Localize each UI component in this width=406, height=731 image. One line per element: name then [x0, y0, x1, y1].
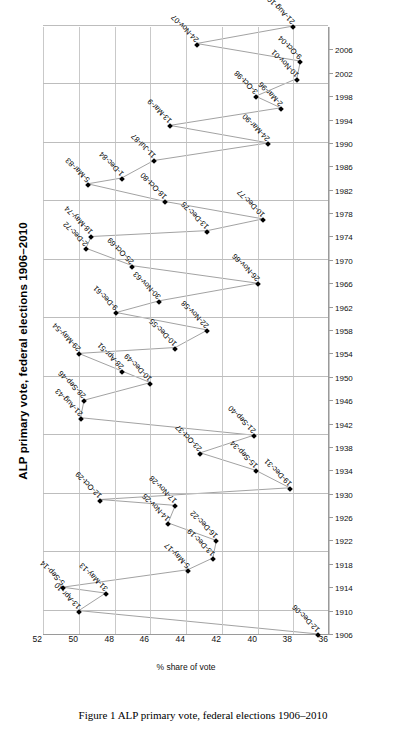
x-axis-tick-mark — [329, 447, 333, 448]
x-axis-tick-mark — [329, 377, 333, 378]
gridline-vertical — [43, 551, 328, 552]
gridline-horizontal — [150, 27, 151, 634]
x-axis-tick-mark — [329, 143, 333, 144]
x-axis-tick-mark — [329, 166, 333, 167]
x-axis-tick-mark — [329, 634, 333, 635]
gridline-horizontal — [258, 27, 259, 634]
x-axis-tick-mark — [329, 283, 333, 284]
x-axis-tick-mark — [329, 353, 333, 354]
x-axis-tick-mark — [329, 587, 333, 588]
x-axis-tick-mark — [329, 96, 333, 97]
gridline-vertical — [43, 142, 328, 143]
x-axis-tick-label: 1998 — [335, 93, 353, 102]
x-axis-tick-mark — [329, 73, 333, 74]
x-axis-tick-mark — [329, 611, 333, 612]
gridline-vertical — [43, 83, 328, 84]
gridline-vertical — [43, 493, 328, 494]
x-axis-tick-label: 1910 — [335, 608, 353, 617]
x-axis-tick-mark — [329, 330, 333, 331]
x-axis-tick-mark — [329, 470, 333, 471]
gridline-horizontal — [186, 27, 187, 634]
x-axis-tick-label: 1942 — [335, 420, 353, 429]
x-axis-tick-mark — [329, 400, 333, 401]
x-axis-tick-mark — [329, 49, 333, 50]
x-axis-tick-label: 1906 — [335, 631, 353, 640]
x-axis-tick-mark — [329, 564, 333, 565]
x-axis-tick-label: 2006 — [335, 46, 353, 55]
x-axis-tick-label: 1946 — [335, 397, 353, 406]
x-axis-tick-label: 1938 — [335, 444, 353, 453]
gridline-horizontal — [293, 27, 294, 634]
gridline-vertical — [43, 317, 328, 318]
chart-stage: ALP primary vote, federal elections 1906… — [17, 1, 389, 701]
x-axis-tick-mark — [329, 119, 333, 120]
figure-caption: Figure 1 ALP primary vote, federal elect… — [0, 709, 406, 721]
gridline-vertical — [43, 376, 328, 377]
x-axis-tick-label: 1954 — [335, 350, 353, 359]
x-axis-tick-label: 1914 — [335, 584, 353, 593]
x-axis-tick-label: 1962 — [335, 304, 353, 313]
x-axis-tick-label: 1918 — [335, 561, 353, 570]
x-axis-tick-label: 1950 — [335, 374, 353, 383]
plot-area — [43, 27, 329, 635]
x-axis-tick-label: 1966 — [335, 280, 353, 289]
x-axis-tick-mark — [329, 540, 333, 541]
gridline-horizontal — [222, 27, 223, 634]
x-axis-tick-label: 1974 — [335, 233, 353, 242]
x-axis-tick-mark — [329, 260, 333, 261]
x-axis-tick-label: 1926 — [335, 514, 353, 523]
x-axis-tick-label: 1930 — [335, 491, 353, 500]
x-axis-tick-mark — [329, 190, 333, 191]
y-axis-tick-label: 52 — [0, 634, 42, 644]
x-axis-tick-label: 1934 — [335, 467, 353, 476]
gridline-horizontal — [43, 27, 44, 634]
gridline-horizontal — [79, 27, 80, 634]
gridline-horizontal — [115, 27, 116, 634]
x-axis-tick-label: 1982 — [335, 187, 353, 196]
x-axis-tick-label: 1978 — [335, 210, 353, 219]
x-axis-tick-label: 1994 — [335, 116, 353, 125]
x-axis-tick-label: 1990 — [335, 140, 353, 149]
x-axis-tick-mark — [329, 307, 333, 308]
gridline-vertical — [43, 610, 328, 611]
x-axis-tick-mark — [329, 517, 333, 518]
x-axis-tick-mark — [329, 213, 333, 214]
y-axis-title: % share of vote — [156, 662, 215, 672]
gridline-vertical — [43, 259, 328, 260]
data-point-label: 21-Aug-10 — [265, 0, 296, 26]
x-axis-tick-label: 1922 — [335, 537, 353, 546]
x-axis-tick-label: 2002 — [335, 70, 353, 79]
x-axis-tick-label: 1986 — [335, 163, 353, 172]
x-axis-tick-label: 1958 — [335, 327, 353, 336]
x-axis-tick-mark — [329, 236, 333, 237]
x-axis-tick-mark — [329, 423, 333, 424]
chart-title: ALP primary vote, federal elections 1906… — [17, 1, 29, 701]
x-axis-tick-mark — [329, 494, 333, 495]
x-axis-tick-label: 1970 — [335, 257, 353, 266]
